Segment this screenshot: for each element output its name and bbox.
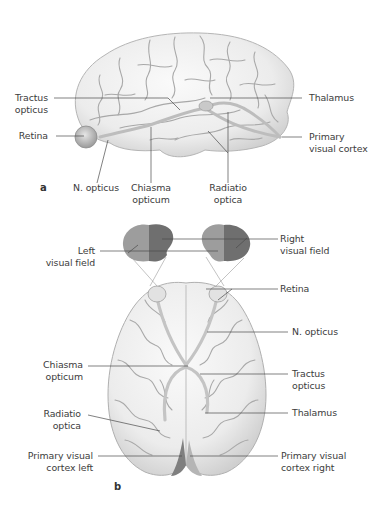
label-chiasma-opticum-b: Chiasma opticum bbox=[30, 359, 83, 383]
label-retina-a: Retina bbox=[8, 130, 48, 142]
thalamus-shape bbox=[199, 101, 213, 111]
label-tractus-opticus-b: Tractus opticus bbox=[292, 368, 325, 392]
visual-pathway-figure: Tractus opticus Retina N. opticus Chiasm… bbox=[0, 0, 376, 513]
label-right-visual-field: Right visual field bbox=[280, 233, 329, 257]
label-thalamus-b: Thalamus bbox=[292, 407, 337, 419]
label-primary-visual-cortex-left: Primary visual cortex left bbox=[20, 450, 93, 474]
label-retina-b: Retina bbox=[280, 283, 309, 295]
left-eye bbox=[148, 286, 166, 302]
label-tractus-opticus-a: Tractus opticus bbox=[8, 92, 48, 116]
inferior-brain bbox=[88, 282, 288, 476]
panel-letter-a: a bbox=[40, 182, 47, 193]
right-visual-field-shape bbox=[202, 224, 250, 261]
lateral-brain bbox=[54, 33, 302, 183]
label-primary-visual-cortex-right: Primary visual cortex right bbox=[281, 450, 346, 474]
label-chiasma-opticum-a: Chiasma opticum bbox=[126, 182, 176, 206]
visual-fields bbox=[100, 224, 278, 286]
left-visual-field-shape bbox=[123, 224, 173, 261]
label-left-visual-field: Left visual field bbox=[40, 245, 95, 269]
sight-lines bbox=[132, 257, 244, 286]
label-thalamus-a: Thalamus bbox=[309, 92, 354, 104]
label-radiatio-optica-b: Radiatio optica bbox=[30, 408, 81, 432]
label-n-opticus-b: N. opticus bbox=[292, 326, 338, 338]
label-radiatio-optica-a: Radiatio optica bbox=[203, 182, 253, 206]
label-n-opticus-a: N. opticus bbox=[66, 182, 126, 194]
label-primary-visual-cortex-a: Primary visual cortex bbox=[309, 131, 368, 155]
panel-letter-b: b bbox=[114, 481, 121, 492]
eyeball bbox=[75, 126, 97, 148]
